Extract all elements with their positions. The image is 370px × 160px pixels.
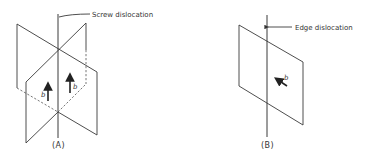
burgers-label-2: b [73,83,78,91]
screw-leader-line [59,14,90,17]
burgers-label: b [284,74,289,82]
caption-b: (B) [261,141,274,150]
screw-dislocation-label: Screw dislocation [92,11,153,19]
burgers-label-1: b [41,91,46,99]
edge-dislocation-label: Edge dislocation [295,24,353,32]
dislocation-diagram: Screw dislocation b b (A) Edge dislocati… [0,0,370,160]
panel-a: Screw dislocation b b (A) [17,11,153,150]
caption-a: (A) [52,141,65,150]
slip-plane [239,25,303,125]
panel-b: Edge dislocation b (B) [239,15,353,150]
